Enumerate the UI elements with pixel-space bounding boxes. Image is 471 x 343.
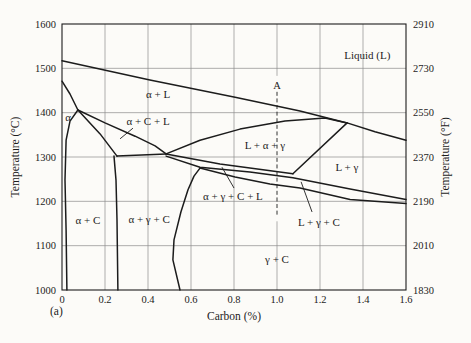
region-label-alpha-c-l: α + C + L (126, 115, 170, 127)
region-label-l-alpha-gamma: L + α + γ (245, 139, 285, 151)
x-axis-tick: 0 (59, 294, 64, 305)
x-axis-tick: 1.2 (313, 294, 326, 305)
y-axis-right-tick: 2550 (413, 107, 434, 118)
phase-boundary-gamma-c-left (173, 168, 200, 290)
region-label-alpha-c: α + C (76, 214, 101, 226)
phase-boundary-alpha-right (65, 110, 78, 290)
y-axis-right-tick: 1830 (413, 285, 434, 296)
y-axis-left-tick: 1500 (35, 63, 56, 74)
y-axis-left-title: Temperature (°C) (9, 116, 22, 197)
x-axis-tick: 0.8 (227, 294, 240, 305)
region-label-l-gamma: L + γ (335, 161, 358, 173)
x-axis-tick: 1.4 (356, 294, 370, 305)
figure-panel-label: (a) (50, 305, 63, 317)
y-axis-left-tick: 1200 (35, 196, 56, 207)
phase-boundary-eutectic-shelf (117, 154, 166, 156)
region-label-alpha-gamma-c: α + γ + C (128, 213, 169, 225)
y-axis-right-tick: 2910 (413, 19, 434, 30)
phase-boundary-alpha-upper-left (62, 81, 78, 110)
x-axis-tick: 0.4 (141, 294, 155, 305)
y-axis-right-tick: 2010 (413, 240, 434, 251)
region-label-l-gamma-c: L + γ + C (298, 216, 340, 228)
region-label-gamma-c: γ + C (264, 253, 289, 265)
phase-diagram-plot: ALiquid (L)α + Lαα + C + LL + α + γL + γ… (0, 0, 471, 343)
y-axis-right-tick: 2370 (413, 152, 434, 163)
y-axis-left-tick: 1100 (35, 240, 56, 251)
x-axis-title: Carbon (%) (207, 310, 261, 323)
y-axis-left-tick: 1000 (35, 285, 56, 296)
y-axis-left-tick: 1600 (35, 19, 56, 30)
y-axis-right-tick: 2190 (413, 196, 434, 207)
phase-boundary-alpha-c-right (114, 156, 118, 290)
region-label-alpha: α (65, 111, 71, 123)
region-label-alpha-l: α + L (146, 88, 170, 100)
x-axis-tick: 0.6 (184, 294, 197, 305)
region-label-liquid: Liquid (L) (344, 49, 390, 62)
y-axis-left-tick: 1400 (35, 107, 56, 118)
y-axis-right-tick: 2730 (413, 63, 434, 74)
x-axis-tick: 1.0 (270, 294, 283, 305)
leader-line-l-gamma-c (301, 182, 312, 212)
x-axis-tick: 1.6 (399, 294, 412, 305)
region-label-alpha-gamma-c-l: α + γ + C + L (203, 190, 263, 202)
point-label-A: A (273, 80, 281, 91)
phase-boundary-alpha-c-l-left (78, 110, 117, 156)
y-axis-left-tick: 1300 (35, 152, 56, 163)
y-axis-right-title: Temperature (°F) (439, 117, 452, 197)
x-axis-tick: 0.2 (98, 294, 111, 305)
phase-diagram-figure: ALiquid (L)α + Lαα + C + LL + α + γL + γ… (0, 0, 471, 343)
